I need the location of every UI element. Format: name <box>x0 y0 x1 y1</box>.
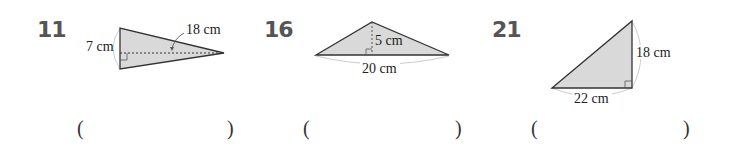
label-11-base: 18 cm <box>186 22 221 37</box>
answer-close-21: ) <box>683 117 690 140</box>
triangle-16: 5 cm 20 cm <box>316 22 449 76</box>
triangle-21: 18 cm 22 cm <box>552 21 673 106</box>
answer-blank-16[interactable] <box>316 118 451 140</box>
label-21-height: 18 cm <box>636 45 671 60</box>
answer-close-11: ) <box>227 117 234 140</box>
answer-close-16: ) <box>455 117 462 140</box>
label-16-base: 20 cm <box>362 61 397 76</box>
answer-open-11: ( <box>77 117 84 140</box>
answer-open-21: ( <box>531 117 538 140</box>
answer-open-16: ( <box>303 117 310 140</box>
label-21-base: 22 cm <box>574 91 609 106</box>
answer-blank-11[interactable] <box>90 118 225 140</box>
triangle-11: 7 cm 18 cm <box>86 22 224 69</box>
label-16-height: 5 cm <box>375 33 403 48</box>
label-11-height: 7 cm <box>86 39 114 54</box>
answer-blank-21[interactable] <box>544 118 679 140</box>
